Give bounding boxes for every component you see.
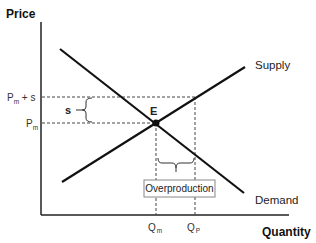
svg-text:Pm: Pm (26, 118, 38, 131)
quantity-left-label: Qm (148, 222, 162, 234)
quantity-right-label: QP (187, 222, 200, 234)
svg-text:QP: QP (187, 222, 200, 234)
svg-text:Pm + s: Pm + s (7, 92, 36, 105)
supply-demand-diagram: Price Quantity E Supply Demand Pm + s Pm… (0, 0, 316, 243)
equilibrium-label: E (150, 105, 157, 117)
svg-text:Qm: Qm (148, 222, 162, 234)
supply-label: Supply (255, 59, 290, 71)
subsidy-brace (82, 98, 92, 122)
x-axis-title: Quantity (262, 225, 311, 239)
overproduction-brace (158, 158, 194, 168)
price-upper-label: Pm + s (7, 92, 36, 105)
overproduction-label: Overproduction (145, 183, 213, 194)
y-axis-title: Price (6, 7, 36, 21)
subsidy-label: s (65, 104, 71, 116)
equilibrium-point (153, 120, 160, 127)
demand-label: Demand (255, 194, 298, 206)
price-lower-label: Pm (26, 118, 38, 131)
